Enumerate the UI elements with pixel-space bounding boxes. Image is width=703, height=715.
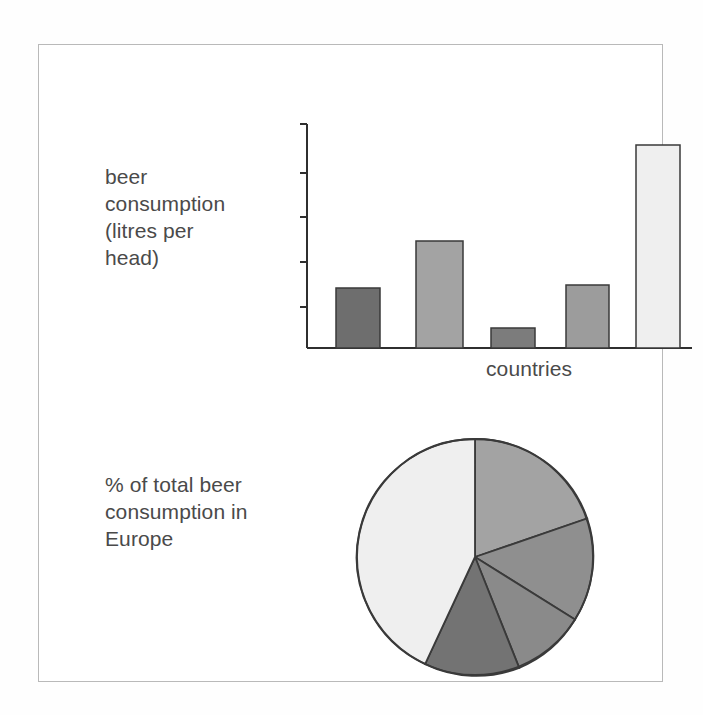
pie-chart <box>339 421 619 701</box>
bar-chart-svg <box>294 115 694 365</box>
bar-chart-x-axis-label: countries <box>486 357 572 381</box>
pie-chart-caption: % of total beer consumption in Europe <box>105 471 320 552</box>
figure-frame: beer consumption (litres per head) count… <box>38 44 663 682</box>
bar-chart-y-axis-caption: beer consumption (litres per head) <box>105 163 295 271</box>
bar-country-1 <box>336 288 380 348</box>
bar-country-4 <box>566 285 609 348</box>
y-axis-ticks <box>300 124 307 307</box>
pie-chart-svg <box>339 421 619 701</box>
figure-page: beer consumption (litres per head) count… <box>0 0 703 715</box>
bar-country-5 <box>636 145 680 348</box>
bar-chart <box>294 115 694 365</box>
bar-country-2 <box>416 241 463 348</box>
bar-country-3 <box>491 328 535 348</box>
